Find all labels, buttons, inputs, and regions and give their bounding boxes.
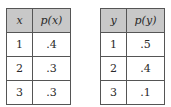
cell-probability: .4 <box>33 33 71 57</box>
header-x: x <box>7 9 33 33</box>
cell-probability: .1 <box>127 81 165 105</box>
cell-probability: .3 <box>33 81 71 105</box>
distribution-table-x: x p(x) 1 .4 2 .3 3 .3 <box>6 8 71 105</box>
cell-value: 3 <box>7 81 33 105</box>
table-row: 2 .3 <box>7 57 71 81</box>
header-row: y p(y) <box>101 9 165 33</box>
distribution-table-y: y p(y) 1 .5 2 .4 3 .1 <box>100 8 165 105</box>
cell-value: 3 <box>101 81 127 105</box>
header-py: p(y) <box>127 9 165 33</box>
cell-probability: .4 <box>127 57 165 81</box>
table-row: 1 .5 <box>101 33 165 57</box>
header-px: p(x) <box>33 9 71 33</box>
cell-probability: .5 <box>127 33 165 57</box>
cell-value: 2 <box>7 57 33 81</box>
table-row: 2 .4 <box>101 57 165 81</box>
header-row: x p(x) <box>7 9 71 33</box>
cell-value: 1 <box>101 33 127 57</box>
table-row: 3 .3 <box>7 81 71 105</box>
header-y: y <box>101 9 127 33</box>
cell-value: 1 <box>7 33 33 57</box>
table-row: 3 .1 <box>101 81 165 105</box>
cell-probability: .3 <box>33 57 71 81</box>
cell-value: 2 <box>101 57 127 81</box>
table-row: 1 .4 <box>7 33 71 57</box>
